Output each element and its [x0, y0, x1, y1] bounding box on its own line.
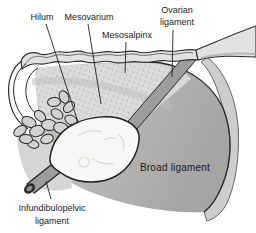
anatomy-figure: Hilum Mesovarium Mesosalpinx Ovarian lig… [0, 0, 256, 233]
ovarian-ligament-label-line1: Ovarian [161, 5, 193, 15]
ovary-ligaments-diagram: Hilum Mesovarium Mesosalpinx Ovarian lig… [0, 0, 256, 233]
infundibulopelvic-label-line1: Infundibulopelvic [18, 203, 86, 213]
infundibulopelvic-label-line2: ligament [35, 216, 70, 226]
ovarian-ligament-label-line2: ligament [160, 17, 195, 27]
mesosalpinx-label: Mesosalpinx [102, 30, 153, 40]
broad-ligament-label: Broad ligament [140, 162, 210, 173]
tube-left-loop-inner [14, 64, 31, 123]
mesovarium-label: Mesovarium [64, 12, 113, 22]
hilum-label: Hilum [30, 12, 53, 22]
